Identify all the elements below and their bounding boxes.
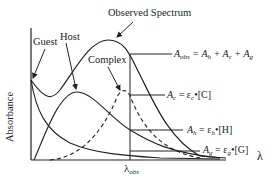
guest-arrow bbox=[33, 49, 45, 78]
guest-equation: Ag = εg•[G] bbox=[203, 145, 248, 157]
complex-label: Complex bbox=[88, 55, 127, 66]
lambda-obs-label: λobs bbox=[124, 163, 139, 176]
guest-label: Guest bbox=[33, 37, 58, 48]
host-label: Host bbox=[60, 32, 80, 43]
observed-spectrum-label: Observed Spectrum bbox=[108, 8, 191, 19]
x-axis-label: λ bbox=[257, 150, 263, 162]
complex-equation: Ac = εc•[C] bbox=[167, 90, 211, 102]
complex-arrow bbox=[108, 67, 120, 90]
host-arrow bbox=[66, 43, 76, 89]
host-equation: Ah = εh•[H] bbox=[187, 125, 232, 137]
observed-equation: Aobs = Ah + Ac + Ag bbox=[174, 49, 253, 61]
observed-spectrum-arrow bbox=[117, 22, 133, 37]
y-axis-label: Absorbance bbox=[4, 92, 15, 142]
